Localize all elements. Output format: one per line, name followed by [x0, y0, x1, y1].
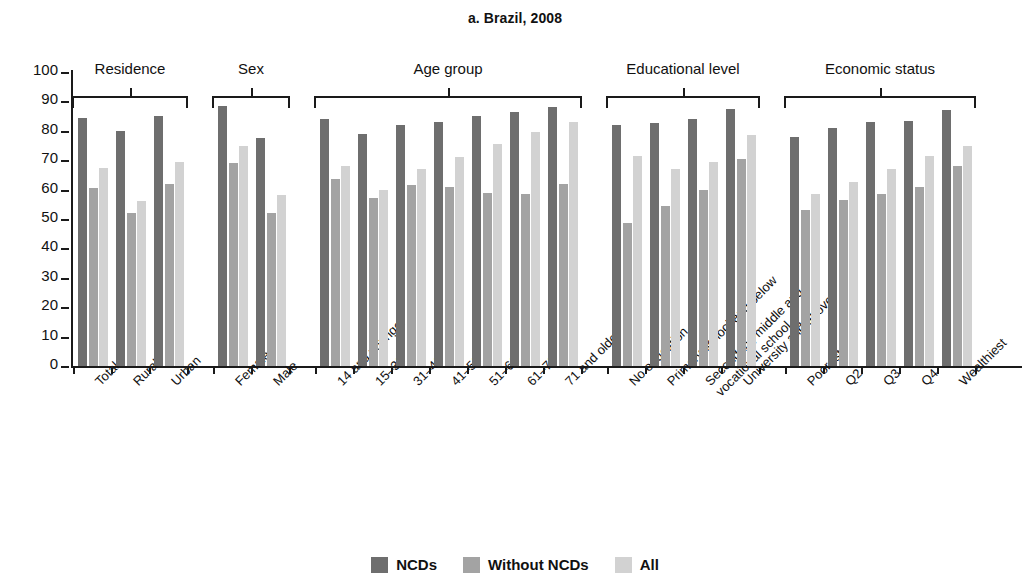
- x-axis-tick: [861, 366, 863, 374]
- bar: [218, 106, 227, 366]
- bar: [737, 159, 746, 366]
- bar: [612, 125, 621, 366]
- x-axis-tick: [645, 366, 647, 374]
- y-axis-tick-mark: [61, 366, 69, 368]
- x-axis-tick: [823, 366, 825, 374]
- bar: [849, 182, 858, 366]
- bar: [688, 119, 697, 366]
- bar: [165, 184, 174, 366]
- x-axis-tick: [785, 366, 787, 374]
- legend-swatch-icon: [371, 557, 388, 573]
- bar: [493, 144, 502, 366]
- y-axis-tick-mark: [61, 72, 69, 74]
- bar: [175, 162, 184, 366]
- bar: [671, 169, 680, 366]
- x-axis-tick: [353, 366, 355, 374]
- x-axis-tick: [213, 366, 215, 374]
- bar: [925, 156, 934, 366]
- bar: [229, 163, 238, 366]
- bar: [569, 122, 578, 366]
- y-axis-tick-mark: [61, 248, 69, 250]
- bar: [623, 223, 632, 366]
- bar: [828, 128, 837, 366]
- x-axis-tick: [543, 366, 545, 374]
- bar: [99, 168, 108, 366]
- bar: [699, 190, 708, 366]
- bar: [154, 116, 163, 366]
- bar: [811, 194, 820, 366]
- bar: [747, 135, 756, 366]
- bar: [963, 146, 972, 367]
- bar: [866, 122, 875, 366]
- bar: [407, 185, 416, 366]
- bar: [887, 169, 896, 366]
- x-axis-tick: [759, 366, 761, 374]
- legend-item: NCDs: [371, 556, 437, 573]
- bar: [472, 116, 481, 366]
- bar: [915, 187, 924, 366]
- y-axis-tick-mark: [61, 190, 69, 192]
- legend-swatch-icon: [615, 557, 632, 573]
- legend-label: NCDs: [396, 556, 437, 573]
- x-axis-tick: [429, 366, 431, 374]
- x-axis-tick: [73, 366, 75, 374]
- bar: [89, 188, 98, 366]
- bar: [78, 118, 87, 366]
- bar: [341, 166, 350, 366]
- bar: [116, 131, 125, 366]
- bar: [726, 109, 735, 366]
- bar: [548, 107, 557, 366]
- bar: [320, 119, 329, 366]
- bar: [331, 179, 340, 366]
- bar: [650, 123, 659, 366]
- x-axis-tick: [467, 366, 469, 374]
- legend-swatch-icon: [463, 557, 480, 573]
- plot-area: [72, 72, 1022, 366]
- x-axis-tick: [899, 366, 901, 374]
- y-axis-tick-label: 70: [18, 149, 58, 166]
- bar: [790, 137, 799, 366]
- legend-item: All: [615, 556, 659, 573]
- bar: [127, 213, 136, 366]
- x-axis-tick: [581, 366, 583, 374]
- legend-item: Without NCDs: [463, 556, 589, 573]
- bar: [942, 110, 951, 366]
- legend-label: Without NCDs: [488, 556, 589, 573]
- bar: [953, 166, 962, 366]
- bar: [633, 156, 642, 366]
- bar: [369, 198, 378, 366]
- y-axis-tick-mark: [61, 160, 69, 162]
- bar: [521, 194, 530, 366]
- bar: [904, 121, 913, 366]
- bar: [239, 146, 248, 367]
- bar: [445, 187, 454, 366]
- x-axis-tick: [683, 366, 685, 374]
- x-axis-tick: [721, 366, 723, 374]
- bar: [396, 125, 405, 366]
- y-axis-tick-label: 40: [18, 237, 58, 254]
- bar: [483, 193, 492, 366]
- y-axis-tick-mark: [61, 131, 69, 133]
- bar: [661, 206, 670, 366]
- x-axis-tick: [937, 366, 939, 374]
- bar: [434, 122, 443, 366]
- y-axis-tick-label: 50: [18, 208, 58, 225]
- y-axis-tick-label: 60: [18, 179, 58, 196]
- y-axis-tick-label: 20: [18, 296, 58, 313]
- bar: [267, 213, 276, 366]
- bar: [256, 138, 265, 366]
- legend-label: All: [640, 556, 659, 573]
- y-axis-tick-mark: [61, 101, 69, 103]
- y-axis-tick-label: 80: [18, 120, 58, 137]
- x-axis-tick: [187, 366, 189, 374]
- y-axis-tick-label: 30: [18, 267, 58, 284]
- chart-legend: NCDsWithout NCDsAll: [0, 556, 1030, 573]
- x-axis-tick: [607, 366, 609, 374]
- x-axis-tick: [289, 366, 291, 374]
- x-axis-tick: [149, 366, 151, 374]
- bar: [455, 157, 464, 366]
- bar: [510, 112, 519, 366]
- y-axis-tick-mark: [61, 307, 69, 309]
- bar: [358, 134, 367, 366]
- y-axis-tick-label: 90: [18, 90, 58, 107]
